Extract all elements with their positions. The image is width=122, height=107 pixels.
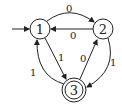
state-3-accepting: 3	[62, 78, 86, 102]
diagram-canvas: 0 0 1 0 1 1 1 2 3	[0, 0, 122, 107]
edge-label-2-to-1: 0	[70, 30, 76, 41]
edge-1-to-2	[47, 13, 94, 22]
state-1-label: 1	[36, 22, 44, 37]
automaton-diagram: 0 0 1 0 1 1 1 2 3	[0, 0, 122, 107]
edge-label-1-to-2: 0	[66, 3, 72, 14]
edge-label-3-to-2: 0	[80, 53, 86, 64]
state-2-label: 2	[99, 22, 107, 37]
state-3-label: 3	[70, 83, 78, 98]
state-1: 1	[30, 19, 50, 39]
edge-label-1-to-3: 1	[58, 52, 64, 63]
edge-label-3-to-1: 1	[30, 67, 36, 78]
edge-label-2-to-3: 1	[110, 57, 116, 68]
edge-2-to-3	[87, 38, 110, 87]
state-2: 2	[93, 19, 113, 39]
